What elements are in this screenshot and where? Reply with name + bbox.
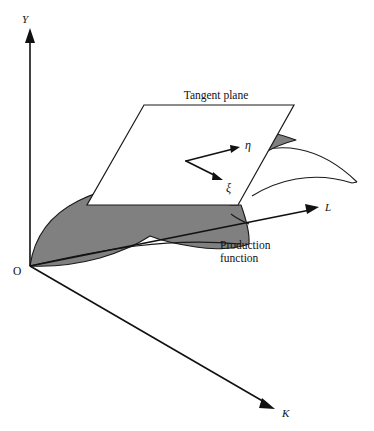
production-function-label-line1: Production	[220, 239, 271, 251]
production-function-tangent-plane-diagram: Y L K O Tangent plane Production functio…	[0, 0, 374, 431]
surface-right-end-cap	[352, 182, 357, 183]
vector-eta-label: η	[245, 138, 251, 152]
origin-label: O	[13, 265, 21, 277]
y-axis	[25, 28, 35, 266]
k-axis-label: K	[281, 407, 290, 419]
y-axis-label: Y	[22, 13, 30, 25]
figure-root: Y L K O Tangent plane Production functio…	[0, 0, 374, 431]
y-axis-arrowhead	[25, 28, 35, 43]
l-axis-label: L	[324, 201, 331, 213]
tangent-plane-label: Tangent plane	[184, 89, 249, 102]
k-axis	[30, 266, 275, 409]
production-function-label-line2: function	[220, 252, 259, 264]
vector-xi-label: ξ	[226, 181, 232, 195]
surface-right-lower-edge	[252, 177, 352, 196]
l-axis-arrowhead	[305, 204, 319, 214]
k-axis-line	[30, 266, 266, 403]
